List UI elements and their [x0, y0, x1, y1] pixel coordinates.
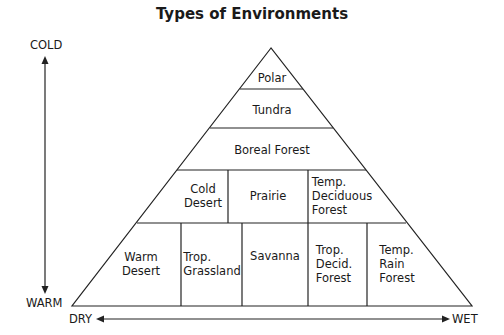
region-temp-rain-forest: Temp. Rain Forest — [379, 243, 414, 285]
region-trop-grassland: Trop. Grassland — [183, 250, 241, 278]
arrow-right-icon — [442, 316, 450, 323]
region-polar: Polar — [258, 71, 287, 85]
region-temp-deciduous-forest: Temp. Deciduous Forest — [312, 175, 372, 217]
arrow-left-icon — [96, 316, 104, 323]
axis-label-cold: COLD — [30, 38, 62, 52]
region-savanna: Savanna — [250, 249, 300, 263]
region-prairie: Prairie — [250, 189, 287, 203]
region-warm-desert: Warm Desert — [122, 250, 160, 278]
arrow-up-icon — [42, 56, 49, 64]
arrow-down-icon — [42, 286, 49, 294]
axis-label-warm: WARM — [26, 296, 63, 310]
region-trop-decid-forest: Trop. Decid. Forest — [316, 243, 352, 285]
region-cold-desert: Cold Desert — [184, 182, 222, 210]
region-boreal-forest: Boreal Forest — [234, 143, 310, 157]
axis-label-dry: DRY — [69, 312, 92, 326]
axis-label-wet: WET — [452, 312, 478, 326]
environment-pyramid — [0, 0, 504, 335]
region-tundra: Tundra — [253, 103, 292, 117]
